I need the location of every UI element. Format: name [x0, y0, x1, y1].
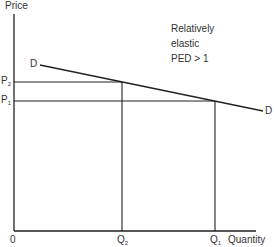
elasticity-annotation: Relatively elastic PED > 1: [171, 21, 214, 66]
origin-label: 0: [10, 235, 16, 245]
q2-label: Q2: [117, 235, 128, 247]
x-axis-label: Quantity: [228, 235, 265, 245]
annotation-line-2: elastic: [171, 36, 214, 51]
demand-label-start: D: [30, 59, 37, 69]
elasticity-diagram: [0, 0, 274, 247]
annotation-line-3: PED > 1: [171, 51, 214, 66]
p2-label: P2: [1, 76, 11, 89]
y-axis-label: Price: [5, 1, 28, 11]
p1-label: P1: [1, 95, 11, 108]
demand-curve: [40, 65, 263, 111]
q1-label: Q1: [210, 235, 221, 247]
annotation-line-1: Relatively: [171, 21, 214, 36]
demand-label-end: D: [265, 106, 272, 116]
